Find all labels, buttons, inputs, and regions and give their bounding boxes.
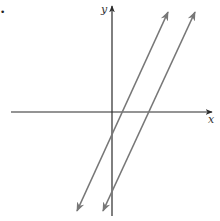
item-marker-dot: • — [0, 7, 5, 17]
y-axis-label: y — [100, 3, 108, 16]
coordinate-plane: • x y — [0, 0, 220, 221]
x-axis-label: x — [208, 113, 215, 126]
